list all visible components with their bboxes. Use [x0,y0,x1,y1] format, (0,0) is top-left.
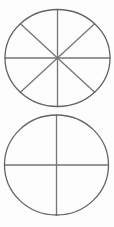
fraction-circles-diagram [0,0,114,227]
top-circle [5,10,110,107]
bottom-circle [5,115,109,215]
diagram-canvas [0,0,114,227]
